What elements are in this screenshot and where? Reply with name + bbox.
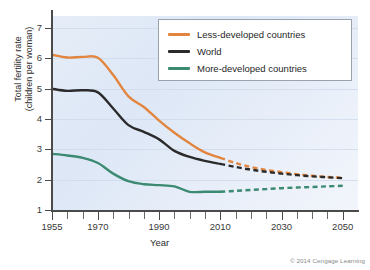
- y-tick-6: [45, 58, 52, 59]
- x-tick-label-1970: 1970: [87, 221, 108, 232]
- legend-item-more-developed: More-developed countries: [159, 60, 351, 77]
- y-tick-7: [45, 28, 52, 29]
- y-tick-label-1: 1: [28, 205, 42, 215]
- x-tick-1990: [159, 212, 160, 220]
- copyright-notice: © 2014 Cengage Learning: [290, 257, 365, 264]
- x-tick-2005: [205, 212, 206, 219]
- legend-label-more-developed: More-developed countries: [197, 63, 307, 74]
- legend-item-world: World: [159, 43, 351, 60]
- x-tick-label-1955: 1955: [41, 221, 62, 232]
- x-tick-2015: [236, 212, 237, 219]
- y-tick-label-3: 3: [28, 144, 42, 154]
- y-axis-title-line1: Total fertility rate: [13, 36, 23, 102]
- x-tick-2010: [220, 212, 221, 220]
- y-tick-2: [45, 180, 52, 181]
- x-tick-label-2050: 2050: [332, 221, 353, 232]
- x-tick-1965: [83, 212, 84, 219]
- y-tick-4: [45, 119, 52, 120]
- legend-swatch-world: [168, 50, 190, 53]
- legend-swatch-more-developed: [168, 67, 190, 70]
- series-line-dashed-2: [220, 186, 342, 192]
- x-tick-2020: [251, 212, 252, 219]
- x-tick-2000: [190, 212, 191, 219]
- x-tick-2050: [343, 212, 344, 220]
- y-axis-line: [51, 10, 53, 212]
- x-tick-2045: [327, 212, 328, 219]
- series-line-solid-1: [52, 89, 220, 164]
- legend-swatch-less-developed: [168, 33, 190, 36]
- x-tick-2030: [282, 212, 283, 220]
- legend-label-less-developed: Less-developed countries: [197, 29, 305, 40]
- y-axis-title-line2: (children per woman): [24, 27, 34, 112]
- x-tick-1980: [129, 212, 130, 219]
- x-tick-1995: [174, 212, 175, 219]
- legend-item-less-developed: Less-developed countries: [159, 26, 351, 43]
- x-axis-title: Year: [150, 237, 169, 248]
- x-tick-1970: [98, 212, 99, 220]
- y-tick-5: [45, 89, 52, 90]
- x-tick-label-2010: 2010: [210, 221, 231, 232]
- x-tick-label-2030: 2030: [271, 221, 292, 232]
- x-tick-1960: [67, 212, 68, 219]
- x-tick-2040: [312, 212, 313, 219]
- x-tick-1955: [52, 212, 53, 220]
- y-tick-1: [45, 210, 52, 211]
- legend-label-world: World: [197, 46, 222, 57]
- legend-box: Less-developed countries World More-deve…: [158, 19, 352, 81]
- chart-figure: 1234567 195519701990201020302050 Total f…: [0, 0, 370, 270]
- x-tick-1985: [144, 212, 145, 219]
- y-axis-title: Total fertility rate(children per woman): [13, 0, 35, 139]
- x-tick-label-1990: 1990: [149, 221, 170, 232]
- x-tick-1975: [113, 212, 114, 219]
- y-tick-label-2: 2: [28, 175, 42, 185]
- x-tick-2035: [297, 212, 298, 219]
- y-tick-3: [45, 149, 52, 150]
- x-tick-2025: [266, 212, 267, 219]
